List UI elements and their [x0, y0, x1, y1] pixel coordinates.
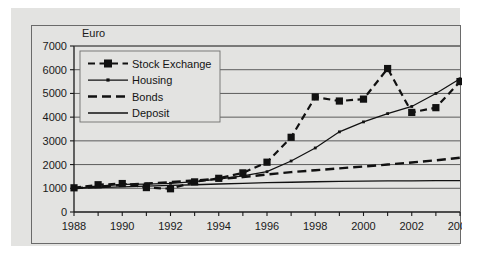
data-point-marker	[410, 105, 413, 108]
data-point-marker	[384, 65, 391, 72]
x-tick-label: 2000	[351, 220, 375, 232]
data-point-marker	[169, 182, 172, 185]
data-point-marker	[432, 104, 439, 111]
x-tick-label: 1996	[255, 220, 279, 232]
y-tick-label: 3000	[43, 135, 67, 147]
x-tick-label: 1992	[158, 220, 182, 232]
data-point-marker	[312, 93, 319, 100]
x-tick-label: 1998	[303, 220, 327, 232]
legend-marker	[104, 60, 112, 68]
x-tick-label: 2004	[448, 220, 462, 232]
data-point-marker	[288, 134, 295, 141]
data-point-marker	[386, 112, 389, 115]
legend-label: Deposit	[132, 107, 169, 119]
data-point-marker	[314, 147, 317, 150]
y-tick-label: 1000	[43, 182, 67, 194]
data-point-marker	[360, 96, 367, 103]
data-point-marker	[459, 77, 462, 80]
y-tick-label: 4000	[43, 111, 67, 123]
data-point-marker	[336, 97, 343, 104]
y-tick-label: 6000	[43, 64, 67, 76]
y-tick-label: 7000	[43, 40, 67, 52]
figure-root: 01000200030004000500060007000 1988199019…	[0, 0, 478, 268]
x-tick-label: 1990	[110, 220, 134, 232]
data-point-marker	[263, 159, 270, 166]
y-axis-unit-label: Euro	[82, 27, 105, 39]
x-tick-label: 2002	[400, 220, 424, 232]
data-point-marker	[290, 160, 293, 163]
y-axis-tick-labels: 01000200030004000500060007000	[43, 40, 74, 218]
data-point-marker	[338, 130, 341, 133]
chart-legend: Stock ExchangeHousingBondsDeposit	[80, 51, 220, 122]
y-tick-label: 2000	[43, 159, 67, 171]
data-point-marker	[434, 92, 437, 95]
legend-label: Housing	[132, 74, 172, 86]
data-point-marker	[362, 120, 365, 123]
x-tick-label: 1988	[62, 220, 86, 232]
data-point-marker	[167, 185, 174, 192]
chart-panel: 01000200030004000500060007000 1988199019…	[11, 8, 460, 246]
y-tick-label: 5000	[43, 87, 67, 99]
chart-frame: 01000200030004000500060007000 1988199019…	[31, 25, 461, 244]
legend-marker	[106, 78, 109, 81]
legend-label: Stock Exchange	[132, 58, 212, 70]
y-tick-label: 0	[61, 206, 67, 218]
legend-label: Bonds	[132, 91, 164, 103]
x-axis-tick-labels: 198819901992199419961998200020022004	[62, 212, 462, 232]
x-tick-label: 1994	[207, 220, 231, 232]
data-point-marker	[266, 170, 269, 173]
line-chart: 01000200030004000500060007000 1988199019…	[32, 26, 462, 245]
data-point-marker	[408, 109, 415, 116]
